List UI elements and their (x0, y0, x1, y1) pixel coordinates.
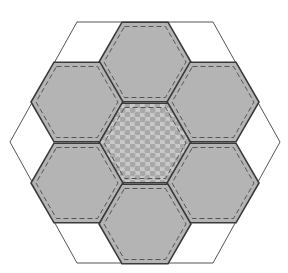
hexagon-quilt-diagram (0, 0, 288, 273)
diagram-canvas (0, 0, 288, 273)
